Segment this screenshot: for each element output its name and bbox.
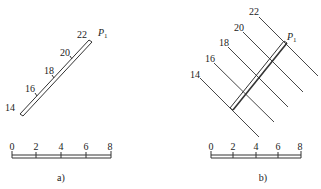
scale-tick-8-a: 8 — [108, 141, 113, 152]
scale-bar-a — [12, 151, 111, 158]
contour-label-22-b: 22 — [249, 6, 259, 17]
caption-a: a) — [57, 172, 65, 184]
plane-strip-b — [230, 41, 287, 110]
panel-b: 14 16 18 20 22 P1 0 2 4 6 8 b) — [190, 6, 318, 184]
diagram-canvas: 14 16 18 20 22 P1 0 2 4 6 8 a) — [0, 0, 321, 189]
panel-a: 14 16 18 20 22 P1 0 2 4 6 8 a) — [5, 27, 113, 184]
caption-b: b) — [259, 172, 267, 184]
scale-tick-6-b: 6 — [276, 141, 281, 152]
scale-tick-0-b: 0 — [209, 141, 214, 152]
contour-label-20-a: 20 — [60, 47, 70, 58]
contour-label-22-a: 22 — [77, 29, 87, 40]
contour-label-14-b: 14 — [190, 69, 200, 80]
scale-tick-0-a: 0 — [10, 141, 15, 152]
contour-label-18-b: 18 — [219, 37, 229, 48]
plane-strip-a — [20, 40, 92, 116]
contour-label-16-b: 16 — [205, 53, 215, 64]
scale-tick-4-b: 4 — [254, 141, 259, 152]
contour-label-18-a: 18 — [44, 65, 54, 76]
scale-bar-b — [211, 151, 301, 158]
scale-tick-2-a: 2 — [34, 141, 39, 152]
plane-label-a: P1 — [97, 27, 108, 40]
contour-label-20-b: 20 — [234, 22, 244, 33]
plane-label-b: P1 — [286, 31, 297, 44]
scale-tick-2-b: 2 — [231, 141, 236, 152]
contour-label-16-a: 16 — [25, 83, 35, 94]
scale-tick-8-b: 8 — [298, 141, 303, 152]
contour-label-14-a: 14 — [5, 102, 15, 113]
scale-tick-6-a: 6 — [84, 141, 89, 152]
scale-tick-4-a: 4 — [59, 141, 64, 152]
